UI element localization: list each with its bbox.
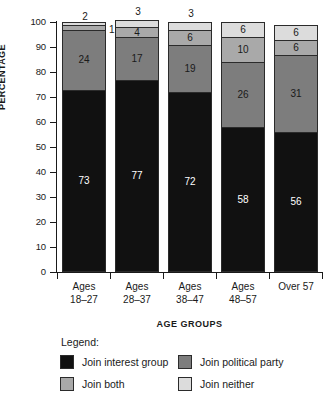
x-axis-tick bbox=[216, 272, 217, 279]
x-axis-category-line: Ages bbox=[160, 281, 220, 294]
x-axis-category-label: Over 57 bbox=[266, 281, 326, 294]
bar-segment-value-above: 3 bbox=[169, 9, 213, 19]
bar-segment-value: 6 bbox=[240, 25, 246, 35]
bar-segment[interactable]: 17 bbox=[115, 37, 159, 80]
legend-swatch bbox=[178, 377, 192, 391]
legend-title: Legend: bbox=[61, 336, 330, 348]
legend-item[interactable]: Join political party bbox=[178, 355, 330, 369]
legend-items: Join interest groupJoin political partyJ… bbox=[60, 355, 330, 391]
y-axis-tick-label: 50 bbox=[20, 142, 46, 152]
x-axis-title: AGE GROUPS bbox=[57, 319, 322, 329]
bar-segment-value-above: 2 bbox=[63, 12, 107, 22]
legend: Legend: Join interest groupJoin politica… bbox=[60, 336, 330, 391]
y-axis-tick-label: 70 bbox=[20, 92, 46, 102]
x-axis-category-label: Ages28–37 bbox=[107, 281, 167, 306]
bar-segment-value-right: 1 bbox=[109, 25, 115, 35]
bar-segment-value: 73 bbox=[78, 176, 89, 186]
bar-segment[interactable]: 6 bbox=[274, 25, 318, 40]
x-axis-category-line: 28–37 bbox=[107, 294, 167, 307]
y-axis-tick-label: 20 bbox=[20, 217, 46, 227]
bar-segment-value: 56 bbox=[290, 197, 301, 207]
bar-segment-value: 31 bbox=[290, 89, 301, 99]
legend-swatch bbox=[178, 355, 192, 369]
x-axis-category-line: 38–47 bbox=[160, 294, 220, 307]
bar-segment-value: 19 bbox=[184, 64, 195, 74]
y-axis-tick-label: 60 bbox=[20, 117, 46, 127]
legend-item-label: Join neither bbox=[200, 379, 254, 390]
bar-segment[interactable]: 19 bbox=[168, 45, 212, 93]
x-axis-tick bbox=[163, 272, 164, 279]
bar-segment[interactable]: 3 bbox=[115, 20, 159, 28]
x-axis-category-line: 48–57 bbox=[213, 294, 273, 307]
bar-segment-value: 6 bbox=[187, 33, 193, 43]
y-axis-tick-label: 100 bbox=[20, 17, 46, 27]
bar-segment[interactable]: 6 bbox=[274, 40, 318, 55]
bar-segment[interactable]: 31 bbox=[274, 55, 318, 133]
bar-segment[interactable]: 58 bbox=[221, 127, 265, 272]
bar-segment-value: 6 bbox=[293, 28, 299, 38]
bar-segment[interactable]: 6 bbox=[168, 30, 212, 45]
legend-swatch bbox=[60, 355, 74, 369]
x-axis-category-label: Ages38–47 bbox=[160, 281, 220, 306]
bar-segment-value: 24 bbox=[78, 55, 89, 65]
x-axis-category-line: Over 57 bbox=[266, 281, 326, 294]
x-axis-line bbox=[56, 272, 322, 273]
x-axis-category-label: Ages18–27 bbox=[54, 281, 114, 306]
y-axis-tick-label: 0 bbox=[20, 267, 46, 277]
legend-item-label: Join both bbox=[82, 379, 125, 390]
bar-segment-value: 72 bbox=[184, 177, 195, 187]
bar-segment-value: 10 bbox=[237, 45, 248, 55]
bar-segment-value: 6 bbox=[293, 43, 299, 53]
bar-segment[interactable]: 26 bbox=[221, 62, 265, 127]
bar-segment[interactable]: 77 bbox=[115, 80, 159, 273]
y-axis-tick-label: 30 bbox=[20, 192, 46, 202]
x-axis-category-line: 18–27 bbox=[54, 294, 114, 307]
x-axis-tick bbox=[57, 272, 58, 279]
bar-segment-value: 58 bbox=[237, 195, 248, 205]
y-axis-title: PERCENTAGE bbox=[0, 20, 7, 110]
bar-segment[interactable]: 6 bbox=[221, 22, 265, 37]
x-axis-category-line: Ages bbox=[54, 281, 114, 294]
legend-item[interactable]: Join both bbox=[60, 377, 178, 391]
plot-area: 1224733417773619726102658663156 bbox=[57, 22, 322, 272]
bar-stack[interactable]: 341777 bbox=[115, 20, 159, 273]
bar-segment-value: 26 bbox=[237, 90, 248, 100]
x-axis-category-line: Ages bbox=[213, 281, 273, 294]
x-axis-tick bbox=[110, 272, 111, 279]
bar-stack[interactable]: 663156 bbox=[274, 25, 318, 273]
bar-segment-value: 4 bbox=[134, 28, 140, 38]
legend-item-label: Join interest group bbox=[82, 357, 168, 368]
x-axis-tick bbox=[322, 272, 323, 279]
bar-segment[interactable]: 24 bbox=[62, 30, 106, 90]
x-axis-tick bbox=[269, 272, 270, 279]
legend-item-label: Join political party bbox=[200, 357, 283, 368]
bar-stack[interactable]: 361972 bbox=[168, 22, 212, 272]
y-axis-tick-label: 90 bbox=[20, 42, 46, 52]
y-axis-tick-label: 80 bbox=[20, 67, 46, 77]
x-axis-category-line: Ages bbox=[107, 281, 167, 294]
bar-segment[interactable]: 10 bbox=[221, 37, 265, 62]
bar-segment[interactable]: 3 bbox=[168, 22, 212, 30]
bar-stack[interactable]: 122473 bbox=[62, 22, 106, 272]
legend-swatch bbox=[60, 377, 74, 391]
bar-segment[interactable]: 4 bbox=[115, 27, 159, 37]
bar-stack[interactable]: 6102658 bbox=[221, 22, 265, 272]
y-axis-tick-label: 40 bbox=[20, 167, 46, 177]
legend-item[interactable]: Join neither bbox=[178, 377, 330, 391]
bar-segment-value: 17 bbox=[131, 54, 142, 64]
bar-segment-value: 77 bbox=[131, 171, 142, 181]
bar-segment-value-above: 3 bbox=[116, 7, 160, 17]
bar-segment[interactable]: 56 bbox=[274, 132, 318, 272]
legend-item[interactable]: Join interest group bbox=[60, 355, 178, 369]
bar-segment[interactable]: 73 bbox=[62, 90, 106, 273]
bar-segment[interactable]: 72 bbox=[168, 92, 212, 272]
stacked-bar-chart: PERCENTAGE 0102030405060708090100 122473… bbox=[0, 0, 336, 412]
y-axis-tick-label: 10 bbox=[20, 242, 46, 252]
x-axis-category-label: Ages48–57 bbox=[213, 281, 273, 306]
